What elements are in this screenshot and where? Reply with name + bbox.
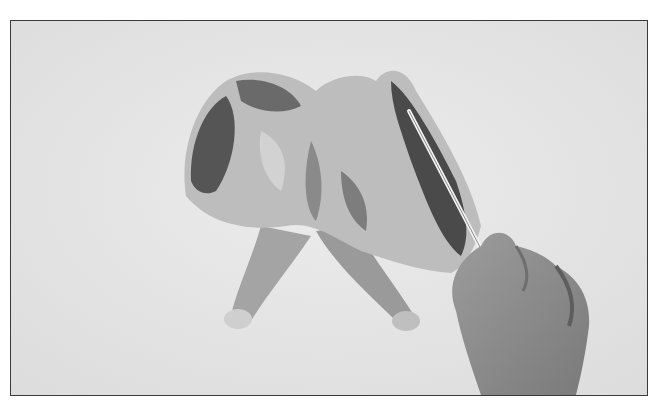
photo-frame — [10, 20, 648, 396]
photo-illustration — [11, 21, 647, 395]
